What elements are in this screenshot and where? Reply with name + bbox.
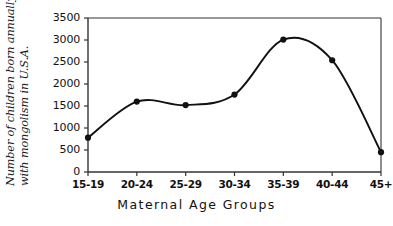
y-axis-tick-label: 3000 [46,33,80,46]
x-axis-tick-label: 40-44 [316,178,348,190]
y-axis-tick-label: 0 [46,165,80,178]
chart-figure: Number of children born annually with mo… [0,0,393,226]
y-axis-tick-label: 500 [46,143,80,156]
x-axis-tick-label: 25-29 [170,178,202,190]
data-point-marker [231,91,237,97]
x-axis-tick-label: 30-34 [218,178,250,190]
data-point-marker [183,102,189,108]
data-point-marker [329,57,335,63]
x-axis-tick-label: 45+ [370,178,393,190]
x-axis-tick-label: 35-39 [267,178,299,190]
data-point-markers [85,36,384,155]
y-axis-tick-label: 2500 [46,55,80,68]
x-axis-tick-label: 15-19 [72,178,104,190]
data-point-marker [280,36,286,42]
data-point-marker [85,135,91,141]
y-axis-tick-label: 1000 [46,121,80,134]
x-axis-tick-label: 20-24 [121,178,153,190]
x-axis-title: Maternal Age Groups [0,197,393,212]
data-point-marker [378,149,384,155]
y-axis-tick-label: 3500 [46,11,80,24]
data-point-marker [134,99,140,105]
y-axis-tick-label: 2000 [46,77,80,90]
y-axis-tick-label: 1500 [46,99,80,112]
